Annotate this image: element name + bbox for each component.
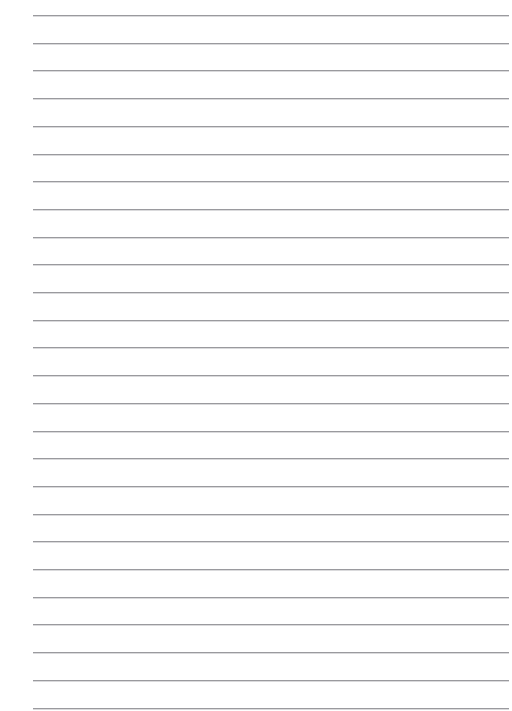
rule-line [33, 15, 509, 16]
rule-line [33, 431, 509, 432]
rule-line [33, 237, 509, 238]
rule-line [33, 708, 509, 709]
rule-line [33, 126, 509, 127]
rule-line [33, 458, 509, 459]
rule-line [33, 375, 509, 376]
rule-line [33, 292, 509, 293]
rule-line [33, 70, 509, 71]
rule-line [33, 264, 509, 265]
rule-line [33, 154, 509, 155]
rule-line [33, 680, 509, 681]
rule-line [33, 347, 509, 348]
rule-line [33, 43, 509, 44]
lined-paper-page: Lined Paper Template Blank ruled writing… [0, 0, 512, 711]
ruled-lines-area [0, 0, 512, 711]
rule-line [33, 541, 509, 542]
rule-line [33, 181, 509, 182]
rule-line [33, 486, 509, 487]
rule-line [33, 98, 509, 99]
rule-line [33, 569, 509, 570]
rule-line [33, 209, 509, 210]
rule-line [33, 624, 509, 625]
rule-line [33, 320, 509, 321]
rule-line [33, 652, 509, 653]
rule-line [33, 597, 509, 598]
rule-line [33, 403, 509, 404]
rule-line [33, 514, 509, 515]
